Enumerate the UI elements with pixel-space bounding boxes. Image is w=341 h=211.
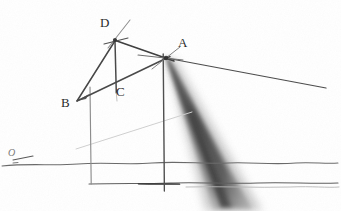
vertex-label-b: B (61, 96, 70, 109)
vertex-dot-a (164, 56, 169, 61)
paper-grain-texture (0, 0, 341, 211)
sketch-drawing (0, 0, 341, 211)
vertex-label-a: A (178, 36, 187, 49)
vertex-label-d: D (100, 16, 109, 29)
vertex-label-c: C (116, 85, 125, 98)
sketch-canvas: A B C D O (0, 0, 341, 211)
vertex-dot-d (113, 38, 117, 42)
datum-label-o: O (8, 148, 15, 158)
thick-base-segment (139, 184, 179, 185)
datum-tick-mark-secondary (13, 163, 18, 164)
